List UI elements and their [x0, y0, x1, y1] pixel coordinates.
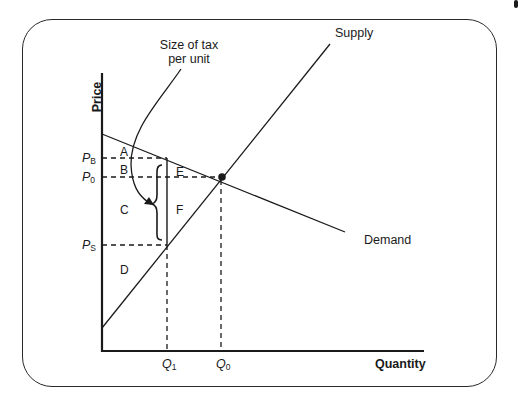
supply-demand-diagram	[0, 0, 518, 406]
demand-label: Demand	[364, 234, 411, 247]
price-tick-pb: PB	[82, 152, 96, 166]
page-edge-mark	[514, 0, 518, 8]
region-a: A	[120, 146, 128, 158]
region-b: B	[120, 164, 128, 176]
y-axis-label: Price	[90, 82, 104, 113]
tax-brace-icon	[152, 165, 162, 240]
arrowhead-icon	[144, 197, 154, 205]
annotation-line-2: per unit	[148, 52, 230, 66]
supply-curve	[102, 44, 330, 328]
price-tick-ps: PS	[82, 239, 96, 253]
annotation-line-1: Size of tax	[148, 38, 230, 52]
region-c: C	[120, 204, 129, 216]
region-f: F	[176, 204, 183, 216]
x-axis-label: Quantity	[375, 358, 426, 371]
region-e: E	[176, 166, 184, 178]
annotation-arrow	[131, 69, 181, 202]
region-d: D	[120, 264, 129, 276]
tax-size-annotation: Size of tax per unit	[148, 38, 230, 66]
equilibrium-point	[218, 173, 226, 181]
supply-label: Supply	[335, 27, 373, 40]
quantity-tick-q1: Q1	[162, 358, 176, 372]
quantity-tick-q0: Q0	[216, 358, 230, 372]
price-tick-p0: P0	[82, 171, 95, 185]
demand-curve	[102, 134, 345, 232]
